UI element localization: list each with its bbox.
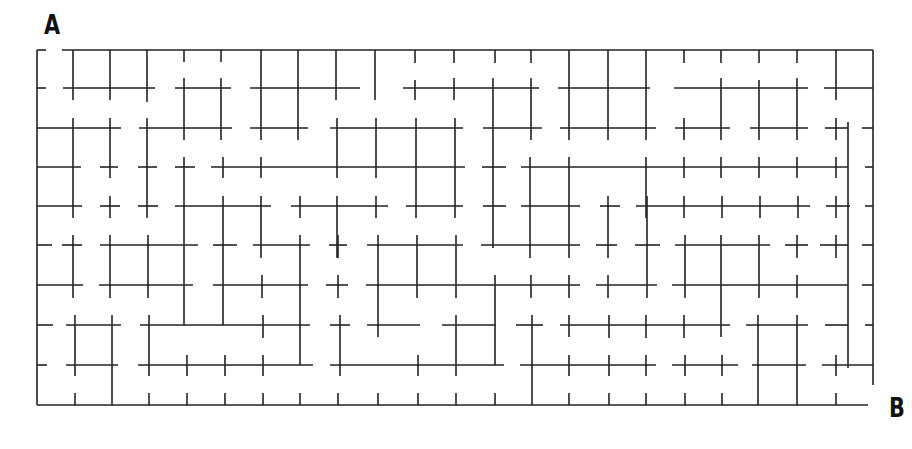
maze-border [37, 50, 873, 405]
maze [0, 0, 912, 449]
maze-walls [37, 50, 873, 405]
